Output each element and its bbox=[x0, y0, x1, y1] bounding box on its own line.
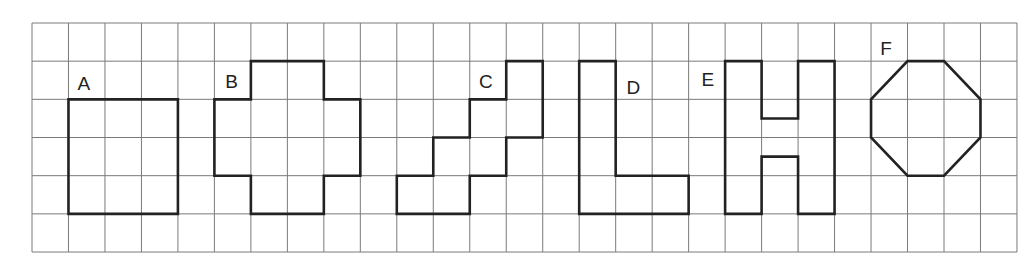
grid-diagram: ABCDEF bbox=[0, 0, 1033, 265]
shape-label-b: B bbox=[225, 71, 238, 92]
shape-label-e: E bbox=[701, 69, 714, 90]
shape-label-a: A bbox=[78, 73, 91, 94]
labels-layer: ABCDEF bbox=[78, 38, 892, 97]
shape-label-f: F bbox=[880, 38, 892, 59]
shape-label-c: C bbox=[479, 71, 493, 92]
shape-f bbox=[871, 61, 980, 176]
shape-a bbox=[68, 99, 177, 214]
shape-label-d: D bbox=[627, 77, 641, 98]
